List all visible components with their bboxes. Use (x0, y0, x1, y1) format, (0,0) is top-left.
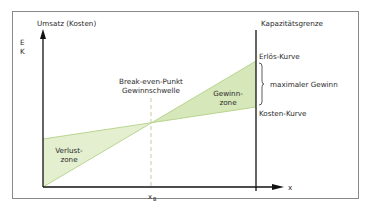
y-symbol-e: E (20, 38, 25, 47)
x-break-even-label: x (148, 193, 152, 201)
break-even-diagram: Umsatz (Kosten) E K Kapazitätsgrenze Erl… (0, 0, 370, 216)
break-even-label-line2: Gewinnschwelle (122, 86, 181, 95)
y-axis-title: Umsatz (Kosten) (37, 19, 96, 28)
profit-zone-label-line2: zone (219, 98, 237, 107)
loss-zone-label-line1: Verlust- (55, 146, 83, 155)
x-axis-label: x (288, 183, 293, 192)
y-symbol-k: K (20, 47, 25, 56)
profit-zone-label-line1: Gewinn- (213, 89, 243, 98)
capacity-label: Kapazitätsgrenze (261, 19, 324, 28)
x-break-even-subscript: B (153, 196, 157, 202)
revenue-curve-label: Erlös-Kurve (259, 52, 300, 61)
max-profit-label: maximaler Gewinn (270, 80, 338, 89)
cost-curve-label: Kosten-Kurve (259, 109, 307, 118)
break-even-label-line1: Break-even-Punkt (119, 77, 183, 86)
loss-zone-label-line2: zone (60, 155, 78, 164)
